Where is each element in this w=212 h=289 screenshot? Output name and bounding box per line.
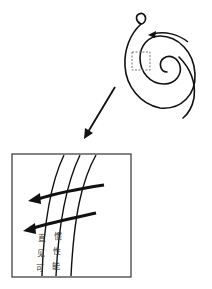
lane1-label-2: 见 <box>36 249 45 258</box>
lane2-label-3: 能 <box>51 262 60 271</box>
spiral-top-loop <box>137 13 146 24</box>
lane1-label-3: 可 <box>35 264 44 273</box>
zoom-pointer-arrow <box>84 87 115 139</box>
spiral-outer-tail <box>179 57 194 118</box>
lane1-label-1: 直 <box>37 234 46 243</box>
diagram-canvas <box>0 0 212 289</box>
spiral-outer-arm <box>125 24 195 108</box>
lane2-label-1: 惯 <box>53 232 62 241</box>
spiral <box>125 13 195 118</box>
lane2-label-2: 性 <box>52 247 61 256</box>
